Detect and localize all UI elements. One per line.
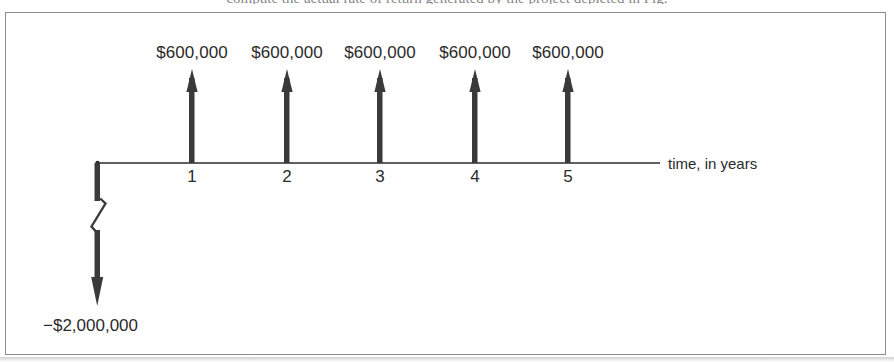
tick-label-year-5: 5 [563,167,572,187]
scale-break-zigzag-icon [92,199,106,233]
inflow-arrow-year-2 [281,69,292,163]
inflow-label-year-1: $600,000 [156,43,228,63]
inflow-label-year-4: $600,000 [439,43,511,63]
tick-label-year-3: 3 [375,167,384,187]
tick-label-year-2: 2 [282,167,291,187]
outflow-arrowhead [91,277,103,306]
inflow-arrow-year-3 [374,69,385,163]
outflow-arrow-time-zero [91,163,105,306]
tick-label-year-1: 1 [187,167,196,187]
inflow-arrow-year-5 [562,69,573,163]
inflow-label-year-5: $600,000 [532,43,604,63]
outflow-label-time-zero: −$2,000,000 [43,316,138,336]
inflow-arrow-year-1 [186,69,197,163]
inflow-arrow-year-4 [469,69,480,163]
inflow-label-year-3: $600,000 [344,43,416,63]
axis-title-time: time, in years [668,155,757,172]
inflow-label-year-2: $600,000 [251,43,323,63]
tick-label-year-4: 4 [470,167,479,187]
cash-flow-diagram: $600,000 $600,000 $600,000 $600,000 $600… [0,0,894,362]
